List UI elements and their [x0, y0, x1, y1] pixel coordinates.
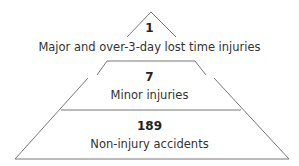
- pyramid-diagram: 1 Major and over-3-day lost time injurie…: [0, 0, 299, 166]
- tier-3-value: 189: [0, 119, 299, 133]
- tier-1-value: 1: [0, 21, 299, 35]
- tier-1-label: Major and over-3-day lost time injuries: [0, 40, 299, 54]
- tier-3-label: Non-injury accidents: [0, 137, 299, 151]
- tier-2-label: Minor injuries: [0, 88, 299, 102]
- tier-2-value: 7: [0, 70, 299, 84]
